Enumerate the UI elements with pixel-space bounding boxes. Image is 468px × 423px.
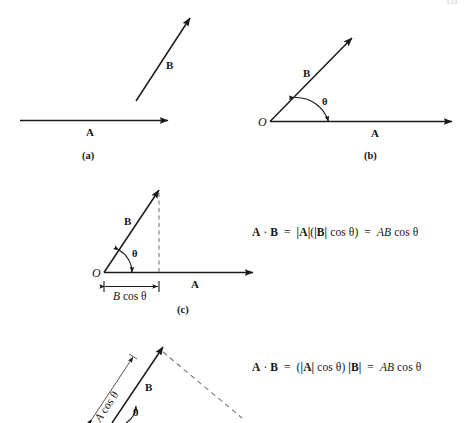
- figure-root: 151: [0, 0, 468, 423]
- eq2-close-paren: ): [341, 361, 345, 373]
- equation-second: A · B = (|A| cos θ) |B| = AB cos θ: [252, 362, 421, 374]
- eq2-result-cos: cos θ: [397, 361, 421, 373]
- eq1-vector-b: B: [270, 226, 278, 238]
- panel-c-caption: (c): [177, 305, 189, 316]
- projection-cos-text: cos θ: [123, 290, 147, 302]
- panel-d-angle-label: θ: [133, 408, 138, 419]
- panel-b-angle-label: θ: [322, 97, 327, 108]
- panel-a-caption: (a): [82, 151, 94, 162]
- figure-vector-graphics: [0, 0, 468, 423]
- panel-b-origin-label: O: [258, 116, 267, 128]
- eq1-equals-2: =: [364, 226, 371, 238]
- eq1-vector-a: A: [252, 226, 260, 238]
- eq1-result-cos: cos θ: [394, 226, 418, 238]
- eq2-abs-b: |B|: [348, 361, 361, 373]
- projection-symbol-b: B: [113, 290, 120, 302]
- panel-c-vector-b-label: B: [124, 216, 131, 227]
- panel-a-graphics: [20, 18, 190, 121]
- panel-b-vector-a-label: A: [371, 128, 379, 139]
- panel-c-vector-a-label: A: [191, 279, 199, 290]
- eq1-abs-b: |B|: [314, 226, 327, 238]
- panel-b-graphics: [270, 38, 452, 122]
- equation-first: A · B = |A|(|B| cos θ) = AB cos θ: [252, 227, 418, 239]
- eq2-equals-1: =: [284, 361, 291, 373]
- eq1-cos-theta: cos θ: [330, 226, 354, 238]
- panel-c-origin-label: O: [92, 267, 101, 279]
- panel-c-projection-label: B cos θ: [113, 291, 147, 303]
- eq2-equals-2: =: [367, 361, 374, 373]
- panel-a-vector-b-label: B: [166, 60, 173, 71]
- panel-d-graphics: [92, 347, 242, 423]
- eq2-vector-b: B: [270, 361, 278, 373]
- eq2-result-ab: AB: [380, 361, 394, 373]
- eq2-dot-operator: ·: [263, 361, 267, 373]
- panel-b-caption: (b): [364, 151, 377, 162]
- eq1-result-ab: AB: [377, 226, 391, 238]
- eq1-abs-a: |A|: [297, 226, 311, 238]
- panel-c-angle-label: θ: [132, 249, 137, 260]
- panel-c-graphics: [104, 190, 253, 292]
- eq2-cos-theta: cos θ: [317, 361, 341, 373]
- eq2-vector-a: A: [252, 361, 260, 373]
- panel-b-vector-b-label: B: [303, 68, 310, 79]
- eq1-dot-operator: ·: [263, 226, 267, 238]
- eq2-abs-a: |A|: [301, 361, 315, 373]
- panel-a-vector-a-label: A: [86, 127, 94, 138]
- eq1-close-paren: ): [354, 226, 358, 238]
- eq1-equals-1: =: [284, 226, 291, 238]
- panel-d-vector-b-label: B: [145, 382, 152, 393]
